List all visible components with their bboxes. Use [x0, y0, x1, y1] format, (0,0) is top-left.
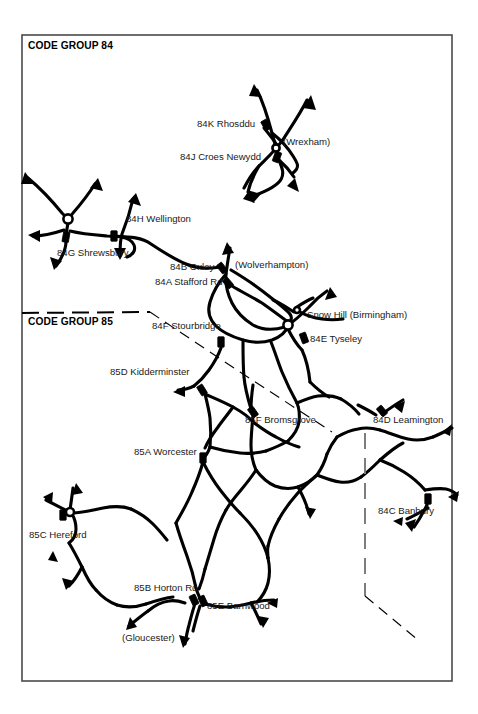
label-85b-horton-rd: 85B Horton Rd [134, 582, 197, 593]
arrow-northeast-snowhill [325, 287, 337, 300]
boundary-segment-horizontal [22, 312, 150, 313]
label-wolverhampton: (Wolverhampton) [235, 259, 308, 270]
label-84d-leamington: 84D Leamington [373, 414, 443, 425]
code-group-84-title: CODE GROUP 84 [28, 40, 113, 51]
code-group-boundary [22, 312, 418, 640]
arrow-east-banbury-north [442, 424, 452, 436]
boundary-segment-tail [365, 596, 418, 640]
depot-marker-layer [60, 119, 431, 607]
depot-marker-85c [60, 510, 66, 520]
arrow-west-shrewsbury [28, 230, 40, 242]
birmingham-junction-node [283, 320, 292, 329]
arrow-west-banbury [393, 517, 403, 526]
railway-depot-map: CODE GROUP 84 CODE GROUP 85 84K Rhosddu … [0, 0, 478, 714]
arrow-southeast-wrexham [287, 178, 299, 192]
arrow-west-kidderminster [173, 386, 185, 397]
label-85e-barnwood: 85E Barnwood [207, 600, 270, 611]
shrewsbury-junction-node [63, 214, 72, 223]
depot-marker-84e [299, 332, 309, 344]
label-snow-hill-birmingham: Snow Hill (Birmingham) [307, 309, 407, 320]
label-85c-hereford: 85C Hereford [29, 529, 87, 540]
label-84k-rhosddu: 84K Rhosddu [197, 118, 255, 129]
label-84e-tyseley: 84E Tyseley [310, 333, 362, 344]
arrow-down-hereford-label [48, 551, 58, 562]
label-gloucester: (Gloucester) [122, 632, 175, 643]
depot-marker-84c [425, 494, 431, 504]
label-84c-banbury: 84C Banbury [378, 505, 434, 516]
depot-marker-84g [62, 231, 70, 242]
label-84h-wellington: 84H Wellington [126, 213, 191, 224]
rail-links-central [199, 403, 317, 602]
arrow-north-wolverhampton [222, 242, 234, 255]
hereford-junction-node [66, 508, 74, 516]
arrow-south-gloucester [179, 635, 190, 648]
label-85f-bromsgrove: 85F Bromsgrove [245, 414, 316, 425]
arrow-south-central [305, 507, 316, 519]
label-84a-stafford-rd: 84A Stafford Rd [155, 276, 223, 287]
arrow-northwest-shrewsbury [21, 172, 34, 184]
depot-marker-85a [200, 453, 206, 463]
label-84f-stourbridge: 84F Stourbridge [152, 320, 221, 331]
label-84g-shrewsbury: 84G Shrewsbury [57, 247, 129, 258]
label-wrexham: (Wrexham) [283, 136, 330, 147]
code-group-85-title: CODE GROUP 85 [28, 316, 113, 327]
arrow-north-wellington [128, 193, 141, 206]
label-84j-croes-newydd: 84J Croes Newydd [180, 151, 261, 162]
depot-marker-84f [218, 337, 224, 347]
label-85a-worcester: 85A Worcester [134, 446, 198, 457]
snowhill-junction-node [294, 307, 300, 313]
depot-marker-84h [111, 231, 117, 241]
label-84b-oxley: 84B Oxley [170, 261, 214, 272]
wrexham-junction-node [272, 144, 279, 151]
map-root: CODE GROUP 84 CODE GROUP 85 84K Rhosddu … [0, 0, 478, 714]
label-85d-kidderminster: 85D Kidderminster [110, 366, 190, 377]
map-frame-border [22, 35, 452, 681]
arrow-north-wrexham [249, 84, 262, 97]
